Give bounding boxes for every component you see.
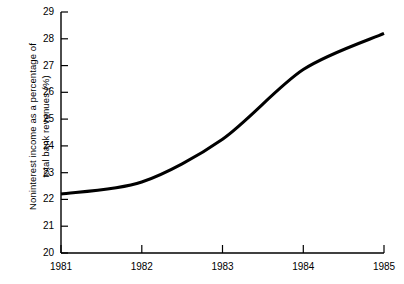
x-axis-ticks: [61, 245, 384, 253]
y-tick-label-28: 28: [34, 34, 54, 44]
x-tick-label-1985: 1985: [364, 262, 404, 272]
plot-area: [0, 0, 404, 284]
y-tick-label-23: 23: [34, 168, 54, 178]
y-tick-label-21: 21: [34, 221, 54, 231]
x-tick-label-1981: 1981: [41, 262, 81, 272]
y-tick-label-22: 22: [34, 194, 54, 204]
y-tick-label-24: 24: [34, 141, 54, 151]
y-tick-label-26: 26: [34, 87, 54, 97]
y-tick-label-27: 27: [34, 61, 54, 71]
x-tick-label-1984: 1984: [283, 262, 323, 272]
y-tick-label-25: 25: [34, 114, 54, 124]
axis-lines: [61, 12, 384, 253]
y-axis-ticks: [61, 12, 68, 253]
data-line-series-1: [61, 33, 384, 194]
y-tick-label-29: 29: [34, 7, 54, 17]
x-tick-label-1982: 1982: [122, 262, 162, 272]
y-tick-label-20: 20: [34, 248, 54, 258]
line-chart: Noninterest income as a percentage of to…: [0, 0, 404, 284]
x-tick-label-1983: 1983: [203, 262, 243, 272]
